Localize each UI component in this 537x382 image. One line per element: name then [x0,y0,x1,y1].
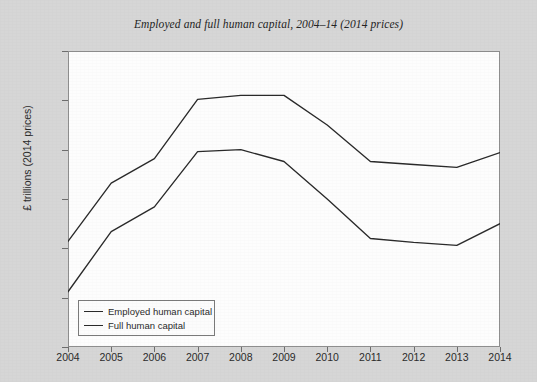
legend-item-employed: Employed human capital [84,304,214,318]
x-tick-mark [198,347,199,352]
legend-line-swatch-employed [84,311,103,312]
legend-label-full: Full human capital [108,320,185,331]
chart-legend: Employed human capital Full human capita… [78,300,215,336]
x-tick-mark [111,347,112,352]
y-axis-label: £ trillions (2014 prices) [21,48,33,268]
legend-label-employed: Employed human capital [108,306,212,317]
legend-line-swatch-full [84,325,103,326]
y-tick-mark [62,100,68,101]
y-tick-mark [62,51,68,52]
chart-figure: Employed and full human capital, 2004–14… [0,0,537,382]
x-tick-mark [68,347,69,352]
x-tick-mark [414,347,415,352]
x-tick-mark [327,347,328,352]
y-tick-mark [62,248,68,249]
x-tick-mark [284,347,285,352]
x-tick-mark [154,347,155,352]
y-tick-mark [62,298,68,299]
y-tick-mark [62,199,68,200]
x-tick-mark [500,347,501,352]
x-tick-mark [457,347,458,352]
chart-title: Employed and full human capital, 2004–14… [0,18,537,30]
x-tick-label: 2014 [475,351,525,363]
x-tick-mark [241,347,242,352]
x-tick-mark [370,347,371,352]
legend-item-full: Full human capital [84,318,214,332]
y-tick-mark [62,150,68,151]
